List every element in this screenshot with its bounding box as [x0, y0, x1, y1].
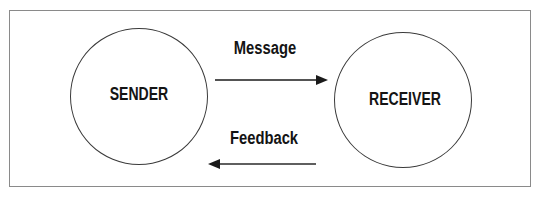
receiver-label: RECEIVER	[369, 90, 441, 108]
message-label: Message	[234, 39, 296, 57]
sender-label: SENDER	[110, 85, 169, 103]
feedback-label: Feedback	[230, 129, 298, 147]
